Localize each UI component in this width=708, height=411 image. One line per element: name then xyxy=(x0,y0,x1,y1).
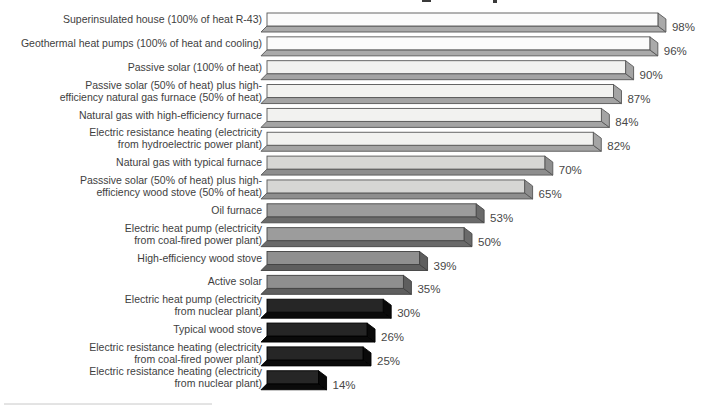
category-label: Electric resistance heating (electricity xyxy=(89,365,262,377)
bar-face xyxy=(267,61,626,74)
category-label: from nuclear plant) xyxy=(174,377,262,389)
category-label: Active solar xyxy=(208,275,263,287)
bar-group: 82%Electric resistance heating (electric… xyxy=(89,126,630,152)
bar-group: 14%Electric resistance heating (electric… xyxy=(89,365,355,391)
bar-face xyxy=(267,132,593,145)
category-label: Electric heat pump (electricity xyxy=(125,222,263,234)
category-label: from nuclear plant) xyxy=(174,305,262,317)
bar-bottom-strip xyxy=(261,217,484,223)
category-label: efficiency natural gas furnace (50% of h… xyxy=(60,91,262,103)
bar-bottom-strip xyxy=(261,336,375,342)
bar-bottom-strip xyxy=(261,145,601,151)
bar-face xyxy=(267,275,403,288)
value-label: 84% xyxy=(615,116,638,128)
category-label: Natural gas with high-efficiency furnace xyxy=(79,109,262,121)
bar-group: 98%Superinsulated house (100% of heat R-… xyxy=(63,13,695,33)
bar-face xyxy=(267,204,476,217)
category-label: from coal-fired power plant) xyxy=(134,234,262,246)
bar-group: 50%Electric heat pump (electricityfrom c… xyxy=(125,222,501,248)
bar-bottom-strip xyxy=(261,241,472,247)
bar-group: 30%Electric heat pump (electricityfrom n… xyxy=(125,293,420,319)
bar-face xyxy=(267,108,601,121)
bar-face xyxy=(267,228,464,241)
value-label: 70% xyxy=(559,164,582,176)
cropped-title-descenders xyxy=(493,0,497,3)
value-label: 30% xyxy=(397,307,420,319)
efficiency-bar-chart-figure: 98%Superinsulated house (100% of heat R-… xyxy=(0,0,708,411)
bar-face xyxy=(267,13,658,26)
value-label: 39% xyxy=(434,260,457,272)
category-label: Electric resistance heating (electricity xyxy=(89,341,262,353)
bar-bottom-strip xyxy=(261,98,621,104)
category-label: Electric heat pump (electricity xyxy=(125,293,263,305)
bar-face xyxy=(267,371,319,384)
category-label: Typical wood stove xyxy=(173,323,262,335)
category-label: High-efficiency wood stove xyxy=(137,252,262,264)
category-label: Superinsulated house (100% of heat R-43) xyxy=(63,13,262,25)
category-label: Oil furnace xyxy=(211,204,262,216)
bar-face xyxy=(267,299,383,312)
value-label: 25% xyxy=(377,355,400,367)
value-label: 26% xyxy=(381,331,404,343)
category-label: from hydroelectric power plant) xyxy=(118,138,262,150)
value-label: 87% xyxy=(627,93,650,105)
value-label: 53% xyxy=(490,212,513,224)
bar-bottom-strip xyxy=(261,312,391,318)
value-label: 50% xyxy=(478,236,501,248)
bar-face xyxy=(267,323,367,336)
value-label: 90% xyxy=(640,69,663,81)
bar-face xyxy=(267,252,420,265)
bar-face xyxy=(267,180,525,193)
category-label: Natural gas with typical furnace xyxy=(116,156,262,168)
bar-group: 39%High-efficiency wood stove xyxy=(137,252,456,272)
category-label: Passive solar (100% of heat) xyxy=(128,61,262,73)
category-label: Geothermal heat pumps (100% of heat and … xyxy=(21,37,262,49)
value-label: 14% xyxy=(333,379,356,391)
cropped-title-descenders xyxy=(422,0,431,2)
value-label: 65% xyxy=(539,188,562,200)
category-label: Electric resistance heating (electricity xyxy=(89,126,262,138)
bar-chart-canvas: 98%Superinsulated house (100% of heat R-… xyxy=(0,0,708,411)
bar-group: 25%Electric resistance heating (electric… xyxy=(89,341,400,367)
bar-face xyxy=(267,156,545,169)
bar-face xyxy=(267,347,363,360)
bar-bottom-strip xyxy=(261,74,634,80)
category-label: from coal-fired power plant) xyxy=(134,353,262,365)
bar-bottom-strip xyxy=(261,50,658,56)
category-label: Passsive solar (50% of heat) plus high- xyxy=(80,174,263,186)
category-label: efficiency wood stove (50% of heat) xyxy=(96,186,262,198)
value-label: 98% xyxy=(672,21,695,33)
bar-face xyxy=(267,85,613,98)
bar-group: 96%Geothermal heat pumps (100% of heat a… xyxy=(21,37,687,57)
bar-bottom-strip xyxy=(261,288,411,294)
bar-group: 87%Passive solar (50% of heat) plus high… xyxy=(60,79,651,105)
bar-bottom-strip xyxy=(261,265,428,271)
value-label: 82% xyxy=(607,140,630,152)
bar-bottom-strip xyxy=(261,384,327,390)
category-label: Passive solar (50% of heat) plus high- xyxy=(85,79,262,91)
value-label: 96% xyxy=(664,45,687,57)
bar-group: 65%Passsive solar (50% of heat) plus hig… xyxy=(80,174,562,200)
bar-face xyxy=(267,37,650,50)
bar-bottom-strip xyxy=(261,360,371,366)
bar-bottom-strip xyxy=(261,121,609,127)
value-label: 35% xyxy=(417,283,440,295)
bar-bottom-strip xyxy=(261,26,666,32)
bar-bottom-strip xyxy=(261,169,553,175)
bar-bottom-strip xyxy=(261,193,533,199)
